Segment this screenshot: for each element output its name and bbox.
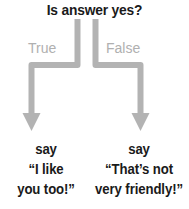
outcome-true: say “I like you too!” xyxy=(0,139,92,199)
flowchart-canvas: Is answer yes? True False say “I like yo… xyxy=(0,0,189,209)
outcome-false: say “That’s not very friendly!” xyxy=(89,139,189,199)
outcome-true-line-1: say xyxy=(3,139,89,159)
outcome-false-line-1: say xyxy=(92,139,186,159)
branch-label-true: True xyxy=(28,40,56,56)
false-branch-arrow xyxy=(96,19,150,131)
outcome-true-line-2: “I like xyxy=(3,159,89,179)
false-branch-arrowhead xyxy=(132,113,150,131)
true-branch-arrow xyxy=(23,19,78,131)
true-branch-arrowhead xyxy=(23,113,41,131)
outcome-true-line-3: you too!” xyxy=(3,179,89,199)
outcome-false-line-3: very friendly!” xyxy=(92,179,186,199)
outcome-false-line-2: “That’s not xyxy=(92,159,186,179)
branch-label-false: False xyxy=(106,40,140,56)
